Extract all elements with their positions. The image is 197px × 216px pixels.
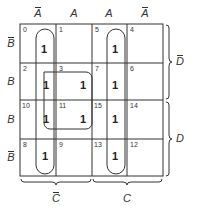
- cell-value: 1: [112, 43, 118, 55]
- cell-index: 11: [59, 102, 66, 109]
- cell-index: 2: [23, 65, 27, 72]
- cell-index: 15: [94, 102, 102, 109]
- cell-index: 7: [95, 65, 99, 72]
- row-label-b: B: [5, 113, 17, 125]
- cell-value: 1: [112, 79, 118, 91]
- cell-value: 1: [43, 79, 49, 91]
- cell-index: 5: [95, 26, 99, 33]
- column-label-a: A: [68, 7, 80, 19]
- cell-index: 6: [130, 65, 134, 72]
- cell-index: 12: [130, 141, 138, 148]
- cell-value: 1: [80, 79, 86, 91]
- cell-value: 1: [112, 150, 118, 162]
- brace-label-not-c: C: [50, 192, 62, 204]
- cell-value: 1: [43, 113, 49, 125]
- column-label-not-a: A: [139, 7, 151, 19]
- column-label-not-a: A: [32, 7, 44, 19]
- cell-value: 1: [80, 113, 86, 125]
- brace-label-c: C: [121, 192, 133, 204]
- cell-index: 9: [59, 141, 63, 148]
- cell-index: 4: [130, 26, 134, 33]
- cell-index: 0: [23, 26, 27, 33]
- brace-label-d: D: [174, 132, 186, 144]
- brace-label-not-d: D: [174, 55, 186, 67]
- cell-value: 1: [112, 113, 118, 125]
- cell-index: 10: [22, 102, 30, 109]
- row-label-not-b: B: [5, 151, 17, 163]
- cell-value: 1: [41, 43, 47, 55]
- row-label-not-b: B: [5, 37, 17, 49]
- cell-index: 13: [94, 141, 102, 148]
- cell-index: 3: [59, 65, 63, 72]
- cell-index: 8: [23, 141, 27, 148]
- cell-index: 1: [59, 26, 63, 33]
- column-label-a: A: [103, 7, 115, 19]
- row-label-b: B: [5, 75, 17, 87]
- cell-index: 14: [130, 102, 138, 109]
- cell-value: 1: [42, 150, 48, 162]
